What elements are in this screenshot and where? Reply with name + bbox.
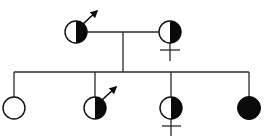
pedigree-diagram bbox=[0, 0, 276, 136]
male-arrow-icon bbox=[102, 87, 116, 100]
male-arrow-icon bbox=[83, 11, 97, 24]
parent-1-symbol bbox=[65, 11, 97, 43]
parent-2-symbol bbox=[159, 21, 181, 61]
relationship-lines bbox=[14, 32, 249, 97]
empty-circle-icon bbox=[3, 97, 25, 119]
child-2-symbol bbox=[84, 87, 116, 119]
filled-circle-icon bbox=[238, 97, 261, 120]
child-4-symbol bbox=[238, 97, 261, 120]
child-3-symbol bbox=[160, 97, 182, 136]
child-1-symbol bbox=[3, 97, 25, 119]
